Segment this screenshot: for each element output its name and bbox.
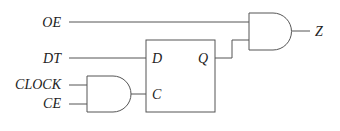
and-gate-output [249, 13, 292, 50]
logic-circuit-diagram: OE DT CLOCK CE D C Q Z [0, 0, 340, 131]
input-label-clock: CLOCK [15, 77, 62, 92]
input-label-ce: CE [43, 96, 61, 111]
pin-label-q: Q [198, 51, 208, 66]
wire-q [215, 40, 249, 58]
and-gate-enable [87, 76, 131, 112]
input-label-dt: DT [42, 51, 62, 66]
pin-label-c: C [152, 87, 162, 102]
output-label-z: Z [315, 24, 323, 39]
input-label-oe: OE [42, 15, 61, 30]
pin-label-d: D [151, 51, 162, 66]
